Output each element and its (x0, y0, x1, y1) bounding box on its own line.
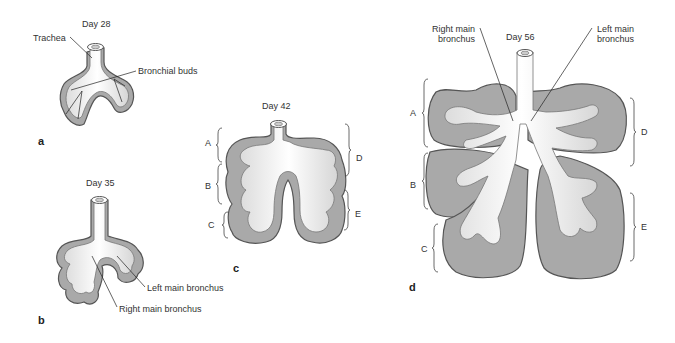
lobe-label-b-c: B (205, 182, 211, 191)
right-main-bronchus-label-d: Right main bronchus (432, 24, 475, 45)
right-main-bronchus-label-b: Right main bronchus (119, 305, 202, 314)
lobe-label-e-d: E (641, 223, 647, 232)
lung-development-figure: Day 28 Trachea Bronchial buds a Day 35 L… (0, 0, 675, 343)
lobe-label-c-c: C (208, 221, 215, 230)
panel-d-letter: d (409, 281, 416, 293)
panel-a-title: Day 28 (82, 20, 111, 29)
panel-c-title: Day 42 (262, 102, 291, 111)
lobe-label-c-d: C (421, 245, 428, 254)
bronchial-buds-label: Bronchial buds (138, 67, 198, 76)
panel-d-title: Day 56 (506, 33, 535, 42)
lobe-label-a-d: A (410, 109, 416, 118)
panel-a-letter: a (38, 135, 44, 147)
figure-artwork (0, 0, 675, 343)
panel-b-letter: b (38, 314, 45, 326)
lobe-label-a-c: A (205, 139, 211, 148)
lobe-label-d-c: D (356, 154, 363, 163)
left-main-bronchus-label-d: Left main bronchus (597, 24, 634, 45)
panel-c-letter: c (233, 262, 239, 274)
lobe-label-d-d: D (641, 128, 648, 137)
lobe-label-b-d: B (410, 181, 416, 190)
panel-b-drawing (57, 197, 145, 308)
panel-c-drawing (216, 121, 351, 244)
panel-d-drawing (422, 28, 636, 279)
trachea-label: Trachea (33, 34, 66, 43)
lobe-label-e-c: E (355, 210, 361, 219)
left-main-bronchus-label-b: Left main bronchus (147, 284, 224, 293)
panel-b-title: Day 35 (86, 179, 115, 188)
panel-a-drawing (60, 37, 136, 125)
